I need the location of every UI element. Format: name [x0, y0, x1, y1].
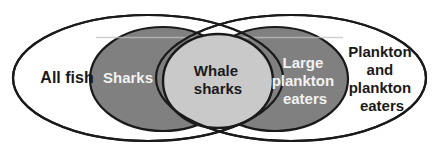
label-plankton-and-plankton-eaters-line-1: Plankton: [348, 43, 411, 60]
label-whale-sharks: Whale sharks: [194, 62, 242, 97]
venn-diagram-canvas: All fish Sharks Whale sharks Large plank…: [0, 0, 439, 156]
label-large-plankton-eaters-line-1: Large: [282, 54, 323, 71]
venn-diagram: All fish Sharks Whale sharks Large plank…: [0, 0, 439, 156]
label-large-plankton-eaters-line-3: eaters: [283, 90, 327, 107]
label-all-fish-line-1: All fish: [40, 69, 93, 86]
label-whale-sharks-line-2: sharks: [194, 80, 242, 97]
label-plankton-and-plankton-eaters-line-2: and: [367, 61, 394, 78]
label-plankton-and-plankton-eaters: Plankton and plankton eaters: [348, 43, 416, 114]
label-plankton-and-plankton-eaters-line-4: eaters: [360, 97, 404, 114]
label-whale-sharks-line-1: Whale: [194, 62, 238, 79]
label-sharks: Sharks: [103, 69, 153, 86]
label-sharks-line-1: Sharks: [103, 69, 153, 86]
label-all-fish: All fish: [40, 69, 93, 86]
label-plankton-and-plankton-eaters-line-3: plankton: [349, 79, 412, 96]
label-large-plankton-eaters-line-2: plankton: [272, 72, 335, 89]
